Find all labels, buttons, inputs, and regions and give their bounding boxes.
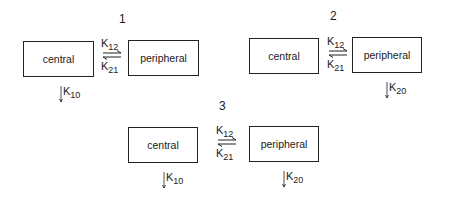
compartment-label: central (268, 50, 300, 62)
k10-label: K10 (166, 172, 183, 186)
k21-label: K21 (327, 59, 344, 73)
k20-elimination: K20 (282, 171, 322, 189)
k10-elimination: K10 (162, 172, 202, 190)
peripheral-compartment: peripheral (249, 126, 319, 162)
central-compartment: central (249, 38, 319, 74)
k20-label: K20 (286, 171, 303, 185)
transfer-rates: K12 K21 (99, 35, 129, 75)
compartment-label: peripheral (261, 138, 308, 150)
compartment-label: central (147, 139, 179, 151)
central-compartment: central (23, 41, 94, 77)
k21-label: K21 (101, 61, 118, 75)
equilibrium-arrows-icon (217, 137, 239, 147)
compartment-label: peripheral (140, 52, 187, 64)
k10-elimination: K10 (59, 86, 99, 104)
diagram-number: 1 (119, 12, 126, 26)
compartment-label: central (43, 53, 75, 65)
transfer-rates: K12 K21 (325, 33, 355, 73)
equilibrium-arrows-icon (102, 50, 124, 60)
diagram-number: 2 (330, 9, 337, 23)
diagram-number: 3 (219, 99, 226, 113)
compartment-label: peripheral (364, 49, 411, 61)
transfer-rates: K12 K21 (214, 122, 244, 162)
k20-elimination: K20 (385, 82, 425, 100)
central-compartment: central (128, 127, 198, 163)
k20-label: K20 (389, 82, 406, 96)
peripheral-compartment: peripheral (352, 37, 422, 73)
k10-label: K10 (63, 86, 80, 100)
peripheral-compartment: peripheral (128, 40, 199, 76)
equilibrium-arrows-icon (328, 48, 350, 58)
k21-label: K21 (216, 148, 233, 162)
